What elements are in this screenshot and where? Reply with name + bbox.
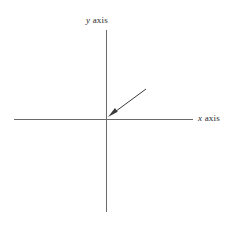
origin-arrow [108,89,146,117]
x-axis-suffix: axis [202,113,220,123]
x-axis-label: x axis [198,113,220,123]
y-axis-label: y axis [86,15,108,25]
axes-diagram: y axis x axis [0,0,232,229]
arrow-shaft [115,89,146,112]
arrow-head-icon [108,108,118,117]
y-axis-suffix: axis [90,15,108,25]
